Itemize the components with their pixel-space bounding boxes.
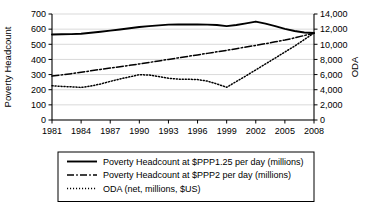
y-axis-right-title: ODA: [349, 56, 360, 77]
dual-axis-line-chart: 0100200300400500600700 02,0004,0006,0008…: [0, 0, 370, 206]
chart-container: 0100200300400500600700 02,0004,0006,0008…: [0, 0, 370, 206]
x-axis-tick-label: 1984: [71, 126, 91, 136]
y-axis-left-tick-label: 0: [41, 115, 46, 125]
y-axis-left-tick-label: 700: [31, 9, 46, 19]
y-axis-right-tick-label: 8,000: [320, 55, 343, 65]
y-axis-left-tick-label: 300: [31, 70, 46, 80]
x-axis-tick-label: 1993: [158, 126, 178, 136]
y-axis-right-tick-label: 4,000: [320, 85, 343, 95]
y-axis-right-tick-label: 12,000: [320, 24, 348, 34]
y-axis-left-tick-label: 400: [31, 55, 46, 65]
gridlines: [52, 14, 314, 120]
x-axis-tick-label: 2002: [246, 126, 266, 136]
x-axis-tick-label: 1981: [42, 126, 62, 136]
x-axis-tick-label: 2008: [304, 126, 324, 136]
y-axis-right: 02,0004,0006,0008,00010,00012,00014,000: [314, 9, 348, 125]
y-axis-left-tick-label: 600: [31, 24, 46, 34]
y-axis-left-title: Poverty Headcount: [2, 26, 13, 107]
x-axis: 1981198419871990199319961999200220052008: [42, 120, 324, 136]
y-axis-right-tick-label: 6,000: [320, 70, 343, 80]
chart-legend: Poverty Headcount at $PPP1.25 per day (m…: [58, 152, 314, 202]
x-axis-tick-label: 1999: [217, 126, 237, 136]
legend-label: Poverty Headcount at $PPP1.25 per day (m…: [103, 157, 304, 167]
y-axis-left-tick-label: 200: [31, 85, 46, 95]
legend-label: ODA (net, millions, $US): [103, 184, 201, 194]
x-axis-tick-label: 1996: [188, 126, 208, 136]
x-axis-tick-label: 1987: [100, 126, 120, 136]
x-axis-tick-label: 1990: [129, 126, 149, 136]
series-line-dotted: [52, 33, 314, 88]
y-axis-right-tick-label: 10,000: [320, 40, 348, 50]
y-axis-left-tick-label: 100: [31, 100, 46, 110]
y-axis-right-tick-label: 2,000: [320, 100, 343, 110]
series-line-solid: [52, 22, 314, 35]
y-axis-left-tick-label: 500: [31, 40, 46, 50]
plot-series: [52, 22, 314, 88]
y-axis-right-tick-label: 14,000: [320, 9, 348, 19]
y-axis-left: 0100200300400500600700: [31, 9, 52, 125]
series-line-dashdot: [52, 33, 314, 76]
x-axis-tick-label: 2005: [275, 126, 295, 136]
legend-label: Poverty Headcount at $PPP2 per day (mill…: [103, 170, 291, 180]
y-axis-right-tick-label: 0: [320, 115, 325, 125]
